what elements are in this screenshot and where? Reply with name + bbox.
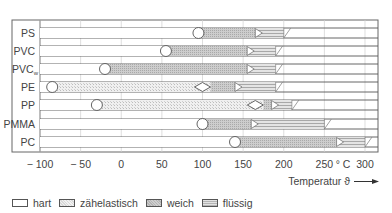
- chart-legend: hart zähelastisch weich flüssig: [12, 197, 261, 209]
- legend-label: zähelastisch: [80, 197, 138, 209]
- legend-label: weich: [167, 197, 194, 209]
- legend-item-zahelastisch: zähelastisch: [59, 197, 138, 209]
- circle-marker: [230, 137, 241, 148]
- segment-zähelastisch: [52, 82, 210, 92]
- segment-hart: [40, 100, 97, 110]
- x-tick-label: 0: [118, 158, 124, 170]
- unit-label: ° C: [336, 158, 351, 170]
- legend-swatch-zahelastisch: [59, 199, 75, 207]
- segment-weich: [211, 82, 235, 92]
- legend-item-flussig: flüssig: [202, 197, 253, 209]
- x-tick-label: − 50: [70, 158, 91, 170]
- x-tick-label: 300: [356, 158, 374, 170]
- x-tick-label: 150: [234, 158, 252, 170]
- segment-weich: [166, 46, 247, 56]
- segment-flüssig: [251, 119, 324, 129]
- segment-weich: [203, 119, 252, 129]
- x-tick-label: 250: [316, 158, 334, 170]
- segment-hart: [40, 28, 198, 38]
- legend-swatch-hart: [12, 199, 28, 207]
- x-axis-label: Temperatur ϑ: [288, 175, 350, 187]
- row-label: PE: [21, 81, 35, 93]
- row-label: PMMA: [4, 118, 36, 130]
- segment-hart: [40, 64, 105, 74]
- row-label: PVC: [13, 45, 35, 57]
- x-tick-label: 50: [156, 158, 168, 170]
- segment-hart: [40, 46, 166, 56]
- x-tick-label: − 100: [27, 158, 54, 170]
- row-label: PC: [20, 136, 35, 148]
- segment-zähelastisch: [97, 100, 264, 110]
- circle-marker: [47, 82, 58, 93]
- segment-hart: [40, 137, 235, 147]
- row-pc: [40, 137, 378, 148]
- segment-weich: [235, 137, 337, 147]
- circle-marker: [197, 119, 208, 130]
- segment-weich: [263, 100, 271, 110]
- circle-marker: [193, 28, 204, 39]
- arrow-head-icon: [372, 179, 379, 184]
- segment-weich: [105, 64, 247, 74]
- legend-label: flüssig: [223, 197, 253, 209]
- temperature-state-chart: PSPVCPVCwPEPPPMMAPC − 100− 5005010015020…: [0, 0, 392, 190]
- row-label: PP: [21, 99, 35, 111]
- x-tick-label: 200: [275, 158, 293, 170]
- legend-swatch-weich: [146, 199, 162, 207]
- legend-item-weich: weich: [146, 197, 194, 209]
- legend-label: hart: [33, 197, 51, 209]
- segment-weich: [198, 28, 255, 38]
- circle-marker: [91, 100, 102, 111]
- circle-marker: [100, 64, 111, 75]
- legend-swatch-flussig: [202, 199, 218, 207]
- segment-hart: [40, 119, 203, 129]
- legend-item-hart: hart: [12, 197, 51, 209]
- row-label: PS: [21, 27, 35, 39]
- circle-marker: [160, 46, 171, 57]
- x-tick-label: 100: [194, 158, 212, 170]
